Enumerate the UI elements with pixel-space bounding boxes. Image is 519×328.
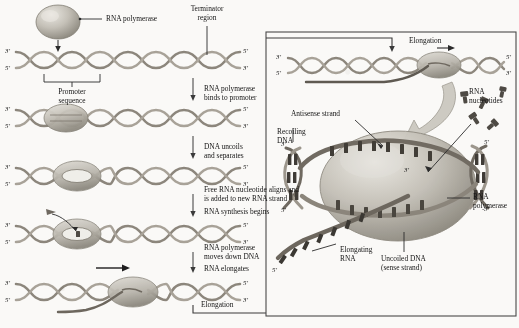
right-top-helix	[288, 52, 504, 82]
right-top-right-bottom-prime: 3'	[506, 69, 511, 77]
step-flow-arrows	[190, 78, 195, 273]
step-3-line-2: is added to new RNA strand	[204, 195, 287, 204]
step-3-line-3: RNA synthesis begins	[204, 208, 269, 217]
promoter-sequence-label-line2: sequence	[43, 97, 101, 106]
elongation-label-right: Elongation	[409, 37, 441, 46]
elongating-rna-label: Elongating RNA	[340, 246, 372, 263]
step-5-elongation: Elongation	[201, 301, 233, 310]
row1-left-top-prime: 3'	[5, 47, 10, 55]
row2-right-bottom-prime: 3'	[243, 122, 248, 130]
row4-left-bottom-prime: 5'	[5, 238, 10, 246]
row4-right-bottom-prime: 3'	[243, 238, 248, 246]
row5-right-top-prime: 5'	[243, 279, 248, 287]
detail-right-upper-prime: 5'	[484, 138, 489, 146]
row5-right-bottom-prime: 3'	[243, 296, 248, 304]
row2-right-top-prime: 5'	[243, 105, 248, 113]
row3-right-top-prime: 5'	[243, 163, 248, 171]
row1-right-top-prime: 5'	[243, 47, 248, 55]
uncoiled-dna-label: Uncoiled DNA (sense strand)	[381, 255, 426, 272]
dna-helix-row-1	[16, 52, 240, 68]
row2-left-bottom-prime: 5'	[5, 122, 10, 130]
antisense-strand-label: Antisense strand	[291, 110, 340, 119]
detail-right-lower-prime: 3'	[484, 205, 489, 213]
row1-right-bottom-prime: 3'	[243, 64, 248, 72]
detail-center-three-prime: 3'	[404, 166, 409, 174]
rna-polymerase-label-right: RNA polymerase	[473, 193, 507, 210]
row3-left-top-prime: 3'	[5, 163, 10, 171]
row1-left-bottom-prime: 5'	[5, 64, 10, 72]
rna-nucleotides-label: RNA nucleotides	[469, 88, 503, 105]
terminator-region-label-line2: region	[178, 14, 236, 23]
right-top-left-top-prime: 3'	[276, 53, 281, 61]
right-top-left-bottom-prime: 5'	[276, 69, 281, 77]
detail-left-upper-prime: 3'	[281, 140, 286, 148]
right-top-right-top-prime: 5'	[506, 53, 511, 61]
diagram-illustration	[0, 0, 519, 328]
row3-left-bottom-prime: 5'	[5, 180, 10, 188]
step-4-line-3: RNA elongates	[204, 265, 249, 274]
row5-left-bottom-prime: 5'	[5, 296, 10, 304]
step-1-line-2: binds to promoter	[204, 94, 257, 103]
step-4-line-2: moves down DNA	[204, 253, 259, 262]
row3-right-bottom-prime: 3'	[243, 180, 248, 188]
row4-right-top-prime: 5'	[243, 221, 248, 229]
step-2-line-2: and separates	[204, 152, 244, 161]
dna-helix-row-2	[16, 104, 240, 132]
rna-polymerase-label: RNA polymerase	[106, 15, 157, 24]
figure-canvas: RNA polymerase Terminator region Promote…	[0, 0, 519, 328]
detail-left-lower-prime: 5'	[281, 206, 286, 214]
row5-left-top-prime: 3'	[5, 279, 10, 287]
row4-left-top-prime: 3'	[5, 221, 10, 229]
rna-polymerase-blob-top	[36, 5, 80, 39]
detail-rna-five-prime: 5'	[272, 266, 277, 274]
row2-left-top-prime: 3'	[5, 105, 10, 113]
